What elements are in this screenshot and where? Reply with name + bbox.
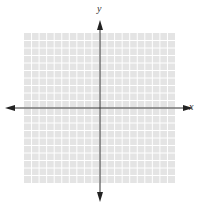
y-axis-down-arrow-icon — [97, 192, 103, 202]
y-axis-up-arrow-icon — [97, 20, 103, 30]
x-axis-label: x — [189, 101, 193, 112]
coordinate-grid — [0, 0, 200, 205]
x-axis-left-arrow-icon — [5, 105, 15, 111]
y-axis-label: y — [97, 3, 101, 14]
